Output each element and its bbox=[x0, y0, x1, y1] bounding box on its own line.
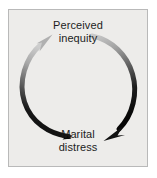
figure-root: Perceived inequity Marital distress bbox=[0, 0, 157, 178]
arrow-inequity-to-distress bbox=[92, 36, 135, 141]
node-label-perceived-inequity: Perceived inequity bbox=[9, 19, 147, 44]
node-label-marital-distress: Marital distress bbox=[9, 128, 147, 153]
cycle-diagram-panel: Perceived inequity Marital distress bbox=[8, 9, 148, 167]
arrow-distress-to-inequity bbox=[22, 35, 71, 140]
